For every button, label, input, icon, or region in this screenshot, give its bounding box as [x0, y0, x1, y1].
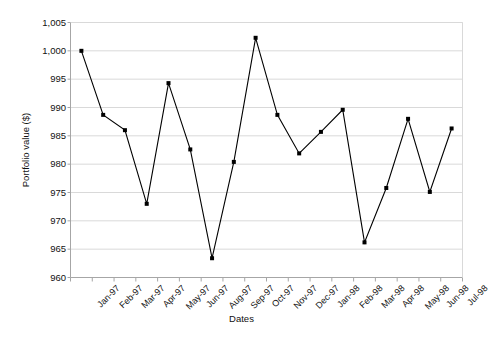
x-axis-tick-label: Jul-98 — [465, 283, 489, 307]
x-axis-tick-label: Sep-97 — [248, 283, 276, 311]
x-axis-tick-label: Mar-98 — [379, 283, 406, 310]
x-axis-tick-label: May-98 — [423, 283, 451, 311]
x-axis-tick-label: Feb-98 — [357, 283, 384, 310]
x-axis-tick-label: Feb-97 — [118, 283, 145, 310]
x-axis-tick-label: Mar-97 — [139, 283, 166, 310]
x-axis-tick-label: Apr-97 — [161, 283, 187, 309]
x-axis-tick-label: Jan-98 — [335, 283, 362, 310]
x-axis-title: Dates — [0, 313, 483, 324]
x-axis-tick-label: Dec-97 — [314, 283, 342, 311]
x-axis-tick-label: Jan-97 — [95, 283, 122, 310]
